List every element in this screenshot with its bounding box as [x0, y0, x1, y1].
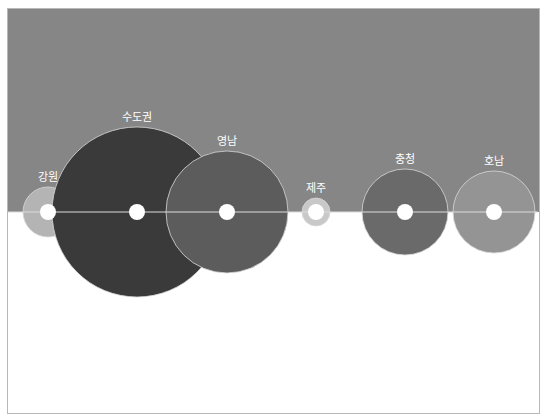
bubble-label: 수도권 — [122, 111, 152, 124]
bubble-label: 호남 — [484, 155, 504, 168]
bubble-label: 충청 — [395, 153, 415, 166]
bubble-center-dot — [308, 204, 324, 220]
bubble-center-dot — [397, 204, 413, 220]
bubble-label: 제주 — [306, 182, 326, 195]
bubble-label: 영남 — [217, 135, 237, 148]
bubble-label: 강원 — [38, 171, 58, 184]
bubble-center-dot — [40, 204, 56, 220]
bubble-chart: 강원수도권영남제주충청호남 — [0, 0, 545, 419]
bubble-center-dot — [129, 204, 145, 220]
bubble-center-dot — [219, 204, 235, 220]
bubble-center-dot — [486, 204, 502, 220]
